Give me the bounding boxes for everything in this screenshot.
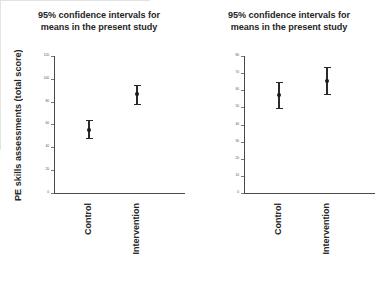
- y-ticklabel-right-70: 70: [229, 71, 239, 75]
- y-ticklabel-right-20: 20: [229, 157, 239, 161]
- mean-marker-right-control: [277, 93, 281, 97]
- y-axis-line-right: [244, 56, 245, 194]
- chart-title-left: 95% confidence intervals for means in th…: [16, 9, 182, 33]
- y-ticklabel-left-80: 80: [38, 100, 49, 104]
- errorbar-cap-top-left-control: [86, 120, 93, 121]
- mean-marker-right-intervention: [325, 79, 329, 83]
- y-axis-label-left: PE skills assessments (total score): [13, 36, 24, 214]
- chart-title-left-line1: 95% confidence intervals for: [38, 10, 160, 20]
- errorbar-cap-bottom-right-control: [276, 108, 283, 109]
- y-ticklabel-right-40: 40: [229, 123, 239, 127]
- y-ticklabel-right-60: 60: [229, 89, 239, 93]
- y-ticklabel-right-10: 10: [229, 174, 239, 178]
- y-tick-left-100: [51, 79, 54, 80]
- y-ticklabel-left-40: 40: [38, 145, 49, 149]
- edge-artifact-top: [0, 0, 150, 1]
- x-axis-line-left: [54, 193, 185, 194]
- mean-marker-left-intervention: [135, 92, 139, 96]
- x-category-label-left-control: Control: [83, 203, 93, 235]
- y-tick-right-30: [241, 142, 244, 143]
- plot-area-right: 80 70 60 50 40 30 20 10 0: [226, 50, 376, 200]
- plot-area-left: 120 100 80 60 40 20 0: [36, 50, 186, 200]
- figure-canvas: 95% confidence intervals for means in th…: [0, 0, 380, 292]
- y-ticklabel-left-20: 20: [38, 168, 49, 172]
- chart-title-right-line2: means in the present study: [231, 22, 347, 32]
- y-tick-right-50: [241, 107, 244, 108]
- y-tick-right-0: [241, 193, 244, 194]
- y-tick-right-20: [241, 159, 244, 160]
- y-tick-right-10: [241, 176, 244, 177]
- y-ticklabel-right-50: 50: [229, 106, 239, 110]
- y-tick-left-0: [51, 193, 54, 194]
- y-ticklabel-left-0: 0: [38, 191, 49, 195]
- y-ticklabel-right-0: 0: [229, 191, 239, 195]
- chart-title-right-line1: 95% confidence intervals for: [228, 10, 350, 20]
- mean-marker-left-control: [87, 128, 91, 132]
- x-category-label-right-intervention: Intervention: [321, 203, 331, 255]
- errorbar-cap-top-right-intervention: [324, 67, 331, 68]
- y-tick-left-80: [51, 102, 54, 103]
- x-category-label-right-control: Control: [273, 203, 283, 235]
- chart-title-right: 95% confidence intervals for means in th…: [206, 9, 372, 33]
- y-ticklabel-left-100: 100: [38, 77, 49, 81]
- errorbar-cap-top-left-intervention: [134, 85, 141, 86]
- x-category-label-left-intervention: Intervention: [131, 203, 141, 255]
- y-ticklabel-right-30: 30: [229, 140, 239, 144]
- y-tick-right-60: [241, 90, 244, 91]
- y-ticklabel-left-60: 60: [38, 122, 49, 126]
- y-tick-right-80: [241, 56, 244, 57]
- y-tick-left-60: [51, 124, 54, 125]
- y-ticklabel-right-80: 80: [229, 54, 239, 58]
- errorbar-cap-bottom-left-intervention: [134, 104, 141, 105]
- errorbar-cap-bottom-left-control: [86, 138, 93, 139]
- y-axis-line-left: [54, 56, 55, 194]
- errorbar-cap-top-right-control: [276, 82, 283, 83]
- pe-skills-panel: 95% confidence intervals for means in th…: [0, 0, 190, 292]
- y-tick-left-120: [51, 56, 54, 57]
- y-ticklabel-left-120: 120: [38, 54, 49, 58]
- y-tick-right-70: [241, 73, 244, 74]
- y-tick-left-40: [51, 147, 54, 148]
- y-tick-right-40: [241, 125, 244, 126]
- edge-artifact-left: [0, 0, 1, 150]
- y-tick-left-20: [51, 170, 54, 171]
- wellbeing-panel: 95% confidence intervals for means in th…: [190, 0, 380, 292]
- errorbar-cap-bottom-right-intervention: [324, 94, 331, 95]
- chart-title-left-line2: means in the present study: [41, 22, 157, 32]
- x-axis-line-right: [244, 193, 375, 194]
